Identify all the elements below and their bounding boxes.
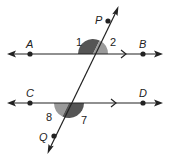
diagram-canvas: A B C D P Q 1 2 8 7 bbox=[0, 0, 175, 161]
point-b bbox=[140, 51, 145, 56]
label-b: B bbox=[139, 38, 146, 50]
point-d bbox=[140, 100, 145, 105]
angle-label-1: 1 bbox=[76, 36, 82, 48]
transversal-pq bbox=[48, 6, 119, 154]
geometry-figure: A B C D P Q 1 2 8 7 bbox=[0, 0, 175, 161]
point-p bbox=[105, 18, 110, 23]
label-q: Q bbox=[39, 131, 48, 143]
angle-label-2: 2 bbox=[110, 36, 116, 48]
angle-label-8: 8 bbox=[46, 111, 52, 123]
point-q bbox=[51, 133, 56, 138]
angle-label-7: 7 bbox=[81, 114, 87, 126]
label-a: A bbox=[25, 38, 33, 50]
label-p: P bbox=[95, 14, 103, 26]
label-c: C bbox=[26, 87, 34, 99]
point-a bbox=[27, 51, 32, 56]
point-c bbox=[27, 100, 32, 105]
label-d: D bbox=[139, 87, 147, 99]
